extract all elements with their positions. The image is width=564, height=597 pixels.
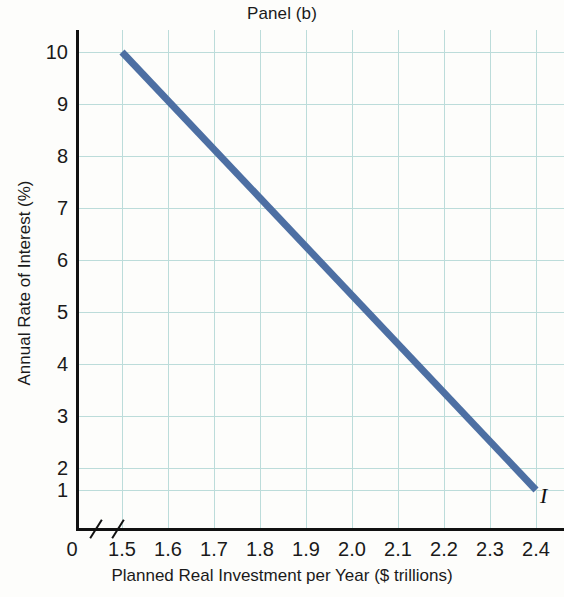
y-tick-label: 2 [4,458,68,478]
chart-figure: Panel (b) 10 9 8 7 6 5 4 3 2 [0,0,564,597]
x-axis-title: Planned Real Investment per Year ($ tril… [0,566,564,586]
gridline-horizontal [78,468,564,469]
plot-area [78,30,564,530]
curve-label-investment: I [540,483,547,509]
y-tick-label: 9 [4,94,68,114]
gridline-vertical [260,30,261,530]
y-tick-label: 3 [4,406,68,426]
x-axis-line [76,528,564,531]
y-tick-label: 7 [4,198,68,218]
gridline-horizontal [78,104,564,105]
y-tick-label: 10 [4,42,68,62]
gridline-horizontal [78,490,564,491]
gridline-vertical [398,30,399,530]
gridline-horizontal [78,416,564,417]
gridline-horizontal [78,260,564,261]
y-axis-line [76,30,79,530]
gridline-horizontal [78,52,564,53]
y-tick-label: 4 [4,354,68,374]
y-tick-label: 6 [4,250,68,270]
gridline-vertical [214,30,215,530]
y-axis-title: Annual Rate of Interest (%) [15,33,35,533]
gridline-horizontal [78,364,564,365]
chart-title: Panel (b) [0,4,564,24]
x-origin-label: 0 [52,538,92,560]
gridline-horizontal [78,156,564,157]
x-tick-label: 2.4 [506,538,564,560]
gridline-vertical [490,30,491,530]
gridline-vertical [352,30,353,530]
y-tick-label: 1 [4,480,68,500]
y-tick-label: 8 [4,146,68,166]
gridline-vertical [306,30,307,530]
gridline-horizontal [78,312,564,313]
gridline-horizontal [78,208,564,209]
y-tick-label: 5 [4,302,68,322]
gridline-vertical [444,30,445,530]
gridline-vertical [122,30,123,530]
gridline-vertical [536,30,537,530]
gridline-vertical [168,30,169,530]
